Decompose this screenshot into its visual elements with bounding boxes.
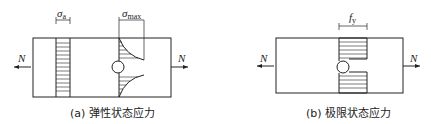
hole-b: [337, 61, 349, 73]
stress-curve-top: [119, 38, 144, 60]
label-force-left-a: N: [18, 52, 25, 64]
figure-a: [14, 17, 188, 97]
caption-b: (b) 极限状态应力: [306, 104, 391, 120]
label-force-right-a: N: [178, 52, 185, 64]
figure-b: [257, 23, 420, 93]
label-sigma-max: σmax: [122, 7, 141, 21]
label-sigma-a: σa: [57, 7, 66, 21]
uniform-stress-hatch: [56, 38, 70, 97]
plate-a: [33, 38, 171, 97]
stress-curve-bottom: [119, 75, 144, 97]
label-fy: fy: [349, 11, 356, 25]
label-force-left-b: N: [260, 52, 267, 64]
label-force-right-b: N: [410, 52, 417, 64]
hole-a: [112, 61, 124, 73]
caption-a: (a) 弹性状态应力: [70, 104, 155, 120]
